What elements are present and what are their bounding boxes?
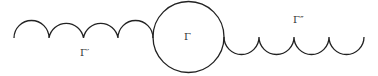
label-gamma: Γ (184, 31, 191, 42)
curve-diagram: Γ′ Γ Γ″ (0, 0, 378, 76)
right-arc-chain (224, 37, 364, 55)
left-arc-chain (14, 21, 153, 38)
label-gamma-double-prime: Γ″ (293, 14, 304, 25)
label-gamma-prime: Γ′ (80, 47, 90, 58)
